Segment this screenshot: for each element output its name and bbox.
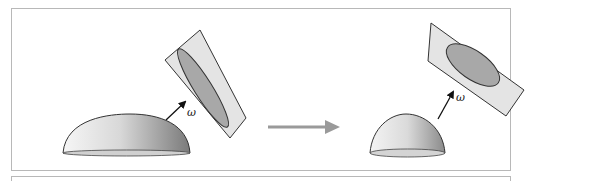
diagram-canvas: ω ω bbox=[0, 0, 589, 181]
tilted-plane bbox=[165, 30, 246, 138]
omega-vector-arrow bbox=[438, 92, 453, 119]
omega-label: ω bbox=[187, 106, 196, 119]
left-panel: ω bbox=[63, 30, 246, 156]
omega-vector-arrow bbox=[166, 102, 185, 120]
omega-label: ω bbox=[456, 91, 465, 104]
flat-dome-shape bbox=[63, 114, 190, 156]
transition-right-arrow-icon bbox=[268, 120, 340, 134]
right-panel: ω bbox=[370, 23, 524, 157]
tilted-plane bbox=[428, 23, 524, 116]
hemisphere-dome-shape bbox=[370, 114, 445, 157]
